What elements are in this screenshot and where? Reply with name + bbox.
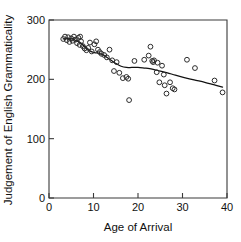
y-tick-label: 200 (27, 73, 45, 85)
x-tick-label: 30 (176, 201, 188, 213)
figure-container: 010203040 0100200300 Age of Arrival Judg… (0, 0, 241, 242)
x-tick-label: 20 (132, 201, 144, 213)
x-axis-title: Age of Arrival (104, 221, 172, 233)
y-tick-label: 300 (27, 14, 45, 26)
x-tick-label: 40 (221, 201, 233, 213)
scatter-plot: 010203040 0100200300 Age of Arrival Judg… (0, 0, 241, 242)
x-tick-label: 10 (87, 201, 99, 213)
y-tick-label: 0 (39, 192, 45, 204)
plot-background (0, 0, 241, 242)
y-axis-title: Judgement of English Grammaticality (2, 15, 14, 206)
x-tick-label: 0 (46, 201, 52, 213)
y-tick-label: 100 (27, 133, 45, 145)
